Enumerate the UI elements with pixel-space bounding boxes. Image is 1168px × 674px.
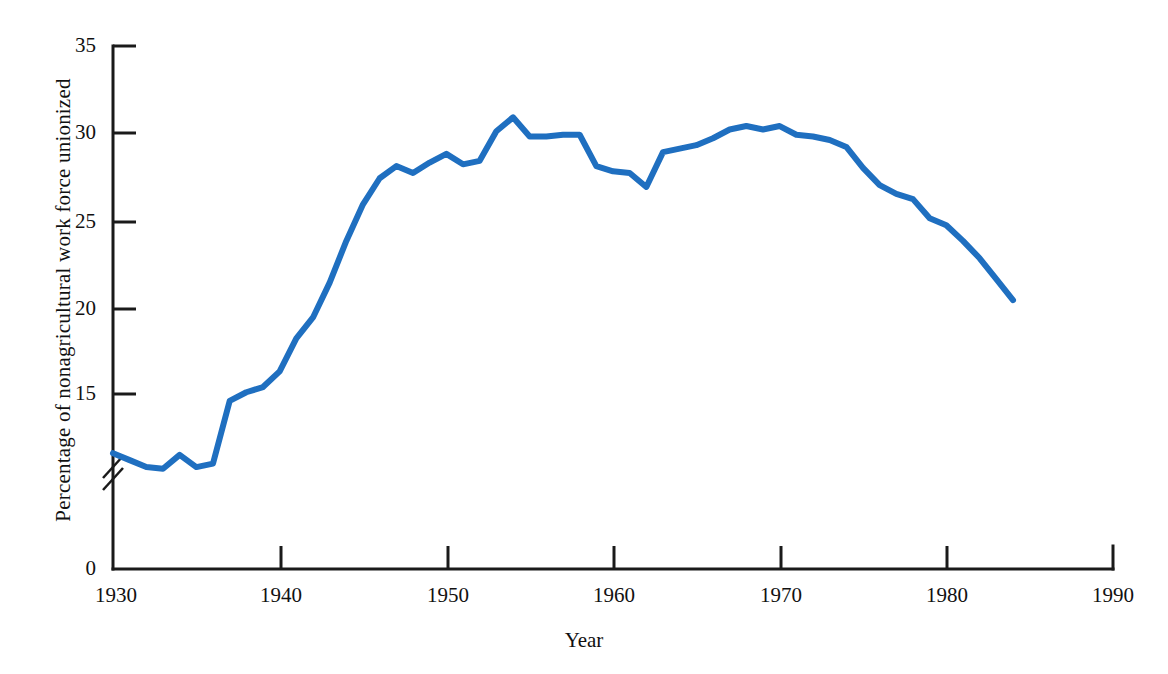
- union-membership-line-chart: Percentage of nonagricultural work force…: [0, 0, 1168, 674]
- data-series-line: [113, 117, 1013, 468]
- plot-area: [0, 0, 1168, 674]
